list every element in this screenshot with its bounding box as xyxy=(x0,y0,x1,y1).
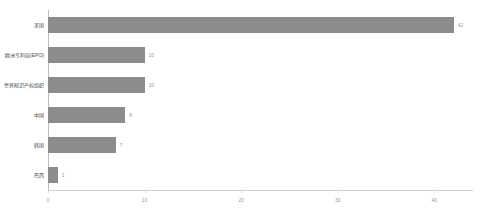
bar-row: 10 xyxy=(48,70,473,100)
x-tick-mark xyxy=(48,190,49,193)
x-tick-label: 0 xyxy=(47,196,50,204)
bar-chart: 421010871 美国欧洲专利局(EPO)世界知识产权组织中国韩国巴西 010… xyxy=(0,0,481,219)
bar-row: 7 xyxy=(48,130,473,160)
category-label: 巴西 xyxy=(34,170,44,180)
bar xyxy=(48,17,454,33)
bar-row: 42 xyxy=(48,10,473,40)
bar-value-label: 7 xyxy=(120,140,123,150)
category-label: 韩国 xyxy=(34,140,44,150)
bar xyxy=(48,47,145,63)
bar xyxy=(48,167,58,183)
bar-row: 1 xyxy=(48,160,473,190)
bar-value-label: 10 xyxy=(149,50,155,60)
bar-value-label: 42 xyxy=(458,20,464,30)
bar-value-label: 10 xyxy=(149,80,155,90)
category-label: 美国 xyxy=(34,20,44,30)
category-label: 欧洲专利局(EPO) xyxy=(5,50,44,60)
bar xyxy=(48,77,145,93)
x-tick-mark xyxy=(338,190,339,193)
plot-area: 421010871 xyxy=(48,10,473,190)
x-tick-mark xyxy=(145,190,146,193)
bar xyxy=(48,137,116,153)
bar-row: 8 xyxy=(48,100,473,130)
x-axis-line xyxy=(48,190,473,191)
x-tick-label: 10 xyxy=(142,196,148,204)
bar-value-label: 8 xyxy=(129,110,132,120)
x-tick-mark xyxy=(434,190,435,193)
x-tick-label: 30 xyxy=(335,196,341,204)
category-label: 中国 xyxy=(34,110,44,120)
bar xyxy=(48,107,125,123)
bar-value-label: 1 xyxy=(62,170,65,180)
x-tick-mark xyxy=(241,190,242,193)
category-label: 世界知识产权组织 xyxy=(4,80,44,90)
bar-row: 10 xyxy=(48,40,473,70)
x-tick-label: 20 xyxy=(238,196,244,204)
x-tick-label: 40 xyxy=(432,196,438,204)
